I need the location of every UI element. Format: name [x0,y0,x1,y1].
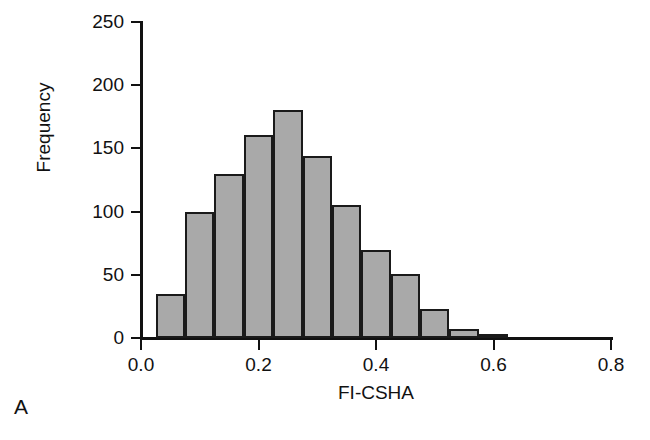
histogram-bar [156,294,185,338]
y-axis-tick-label: 250 [64,12,124,31]
x-axis-tick [375,339,377,350]
x-axis-tick [493,339,495,350]
x-axis-tick [140,339,142,350]
y-axis-title: Frequency [34,43,53,213]
histogram-bar [185,212,214,338]
x-axis-tick [258,339,260,350]
x-axis-title: FI-CSHA [141,383,611,402]
y-axis-tick-label-wrap: 200 [58,75,124,76]
y-axis-tick-label-wrap: 50 [58,265,124,266]
y-axis-tick [131,274,141,276]
histogram-bar [303,156,332,338]
y-axis-tick-label: 50 [64,265,124,284]
histogram-bar [244,135,273,339]
histogram-bar [391,274,420,338]
x-axis-tick-label: 0.8 [571,355,650,374]
plot-area [141,22,611,338]
x-axis-tick [610,339,612,350]
y-axis-tick-label: 100 [64,202,124,221]
y-axis-tick-label: 0 [64,328,124,347]
x-axis-tick-label: 0.4 [336,355,416,374]
y-axis-tick-label: 200 [64,75,124,94]
histogram-bar [214,174,243,338]
histogram-bar [420,309,449,338]
y-axis-tick-label-wrap: 150 [58,138,124,139]
y-axis-tick [131,21,141,23]
histogram-bar [361,250,390,338]
y-axis-tick-label-wrap: 250 [58,12,124,13]
y-axis-tick-label-wrap: 100 [58,202,124,203]
y-axis-tick [131,147,141,149]
y-axis-tick [131,84,141,86]
histogram-bar [449,329,478,338]
x-axis-tick-label: 0.6 [454,355,534,374]
histogram-bar [332,205,361,338]
y-axis-tick-label-wrap: 0 [58,328,124,329]
y-axis-tick [131,211,141,213]
histogram-bar [479,334,508,338]
panel-label: A [14,396,29,417]
x-axis-tick-label: 0.0 [101,355,181,374]
y-axis-tick-label: 150 [64,138,124,157]
histogram-bar [273,110,302,338]
x-axis-tick-label: 0.2 [219,355,299,374]
histogram-figure: 050100150200250 Frequency 0.00.20.40.60.… [0,0,650,440]
